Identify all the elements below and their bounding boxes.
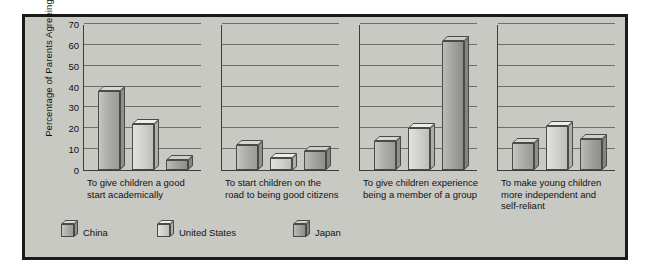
- legend-swatch: [61, 224, 74, 237]
- category-caption-line: To give children a good: [87, 177, 235, 189]
- gridline: [498, 65, 615, 66]
- plot-area: [221, 25, 339, 171]
- bar-japan: [580, 139, 602, 170]
- gridline: [222, 86, 339, 87]
- bar-china: [98, 91, 120, 170]
- bar-japan: [304, 151, 326, 170]
- bar-side-face: [258, 140, 263, 170]
- category-caption: To start children on theroad to being go…: [225, 177, 373, 200]
- plot-top-line: [498, 23, 615, 24]
- y-axis-tick-label: 40: [68, 81, 79, 92]
- legend-swatch-front: [293, 224, 306, 237]
- bar-china: [512, 143, 534, 170]
- y-axis-tick-label: 0: [74, 165, 79, 176]
- bar-japan: [166, 160, 188, 170]
- chart-panel: [359, 25, 477, 171]
- bar-side-face: [534, 138, 539, 170]
- bar-front-face: [408, 128, 430, 170]
- gridline: [498, 86, 615, 87]
- bar-front-face: [166, 160, 188, 170]
- chart-panel: 010203040506070: [83, 25, 201, 171]
- bar-united-states: [546, 126, 568, 170]
- y-axis-tick-label: 70: [68, 19, 79, 30]
- legend-swatch-front: [61, 224, 74, 237]
- plot-area: [359, 25, 477, 171]
- category-caption: To give children experiencebeing a membe…: [363, 177, 511, 200]
- y-axis-tick-label: 50: [68, 60, 79, 71]
- category-caption-line: start academically: [87, 189, 235, 201]
- bar-united-states: [132, 124, 154, 170]
- bar-front-face: [442, 41, 464, 170]
- legend-label: Japan: [315, 227, 341, 238]
- bar-united-states: [408, 128, 430, 170]
- legend-swatch: [157, 224, 170, 237]
- gridline: [222, 65, 339, 66]
- gridline: [222, 44, 339, 45]
- gridline: [498, 106, 615, 107]
- y-axis-tick-label: 10: [68, 144, 79, 155]
- category-caption-line: road to being good citizens: [225, 189, 373, 201]
- legend-swatch-front: [157, 224, 170, 237]
- y-axis-tick-label: 60: [68, 39, 79, 50]
- category-caption-line: self-reliant: [501, 200, 649, 212]
- plot-area: [497, 25, 615, 171]
- chart-figure: Percentage of Parents Agreeing 010203040…: [22, 14, 628, 260]
- bar-front-face: [132, 124, 154, 170]
- y-axis-tick-label: 30: [68, 102, 79, 113]
- bar-front-face: [580, 139, 602, 170]
- category-caption: To give children a goodstart academicall…: [87, 177, 235, 200]
- plot-top-line: [84, 23, 201, 24]
- bar-front-face: [270, 158, 292, 171]
- bar-side-face: [154, 120, 159, 170]
- bar-side-face: [430, 124, 435, 170]
- legend-swatch: [293, 224, 306, 237]
- category-caption-line: To start children on the: [225, 177, 373, 189]
- bar-front-face: [98, 91, 120, 170]
- category-caption-line: To give children experience: [363, 177, 511, 189]
- bar-side-face: [602, 134, 607, 170]
- bar-front-face: [304, 151, 326, 170]
- plot-area: 010203040506070: [83, 25, 201, 171]
- y-axis-tick-label: 20: [68, 123, 79, 134]
- gridline: [84, 44, 201, 45]
- bar-side-face: [396, 136, 401, 170]
- bar-front-face: [546, 126, 568, 170]
- bar-front-face: [374, 141, 396, 170]
- plot-top-line: [360, 23, 477, 24]
- bar-front-face: [236, 145, 258, 170]
- category-caption-line: being a member of a group: [363, 189, 511, 201]
- bar-japan: [442, 41, 464, 170]
- gridline: [498, 44, 615, 45]
- gridline: [222, 106, 339, 107]
- category-caption-line: more independent and: [501, 189, 649, 201]
- bar-china: [236, 145, 258, 170]
- bar-united-states: [270, 158, 292, 171]
- chart-panel: [221, 25, 339, 171]
- category-caption: To make young childrenmore independent a…: [501, 177, 649, 212]
- category-caption-line: To make young children: [501, 177, 649, 189]
- bar-front-face: [512, 143, 534, 170]
- plot-top-line: [222, 23, 339, 24]
- chart-panel: [497, 25, 615, 171]
- bar-side-face: [120, 86, 125, 170]
- gridline: [84, 65, 201, 66]
- y-axis-title: Percentage of Parents Agreeing: [43, 0, 57, 143]
- legend-label: United States: [179, 227, 236, 238]
- bar-side-face: [568, 122, 573, 170]
- bar-side-face: [464, 36, 469, 170]
- gridline: [222, 127, 339, 128]
- legend-label: China: [83, 227, 108, 238]
- bar-china: [374, 141, 396, 170]
